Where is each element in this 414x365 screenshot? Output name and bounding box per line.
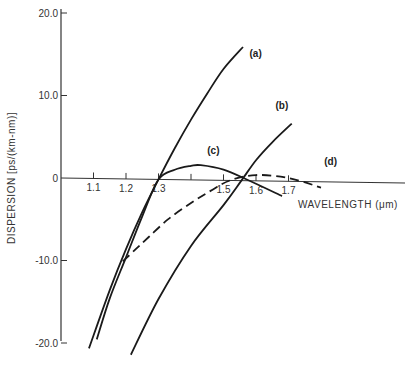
x-tick-label: 1.2: [119, 183, 133, 194]
x-axis: [61, 178, 405, 183]
y-tick-label: -20.0: [35, 338, 58, 349]
dispersion-chart: 20.010.00-10.0-20.0 1.11.21.31.51.61.7 (…: [0, 0, 414, 365]
x-tick-label: 1.7: [282, 185, 296, 196]
series-lines: [89, 47, 321, 355]
x-tick-label: 1.5: [217, 184, 231, 195]
y-tick-label: -10.0: [35, 255, 58, 266]
series-label-a: (a): [250, 48, 262, 59]
series-label-b: (b): [276, 100, 289, 111]
series-line-b: [131, 124, 292, 355]
y-tick-label: 20.0: [39, 8, 59, 19]
y-axis-title: DISPERSION [ps/(km-nm)]: [6, 112, 17, 244]
x-tick-label: 1.1: [87, 182, 101, 193]
x-axis-title: WAVELENGTH (μm): [298, 199, 398, 210]
x-ticks: 1.11.21.31.51.61.7: [87, 172, 296, 196]
series-line-a: [89, 47, 243, 348]
series-label-c: (c): [207, 145, 219, 156]
y-tick-label: 10.0: [39, 90, 59, 101]
series-label-d: (d): [324, 156, 337, 167]
y-tick-label: 0: [52, 173, 58, 184]
